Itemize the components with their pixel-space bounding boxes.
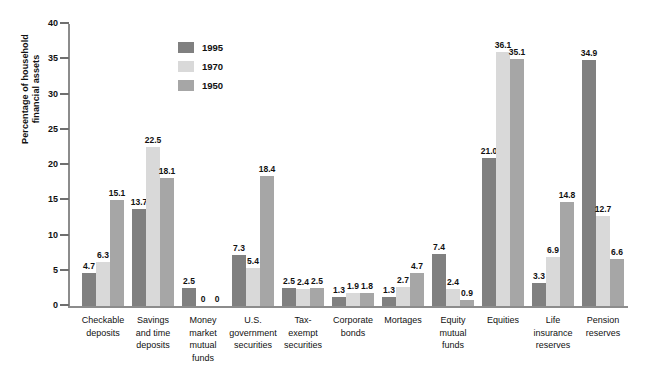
bar-slot[interactable]: 3.3 [532,24,546,306]
x-axis-category-label: Pensionreserves [572,314,634,339]
bar-value-label: 18.1 [159,167,176,176]
bar[interactable] [232,255,246,306]
bar[interactable] [282,288,296,306]
bar[interactable] [532,283,546,306]
y-axis-line [68,24,70,306]
bar-slot[interactable]: 13.7 [132,24,146,306]
bar-slot[interactable]: 36.1 [496,24,510,306]
bar[interactable] [560,202,574,306]
legend-item[interactable]: 1970 [178,61,223,72]
bar-slot[interactable]: 2.7 [396,24,410,306]
bar-value-label: 21.0 [481,147,498,156]
legend-label: 1970 [202,61,223,72]
bar[interactable] [110,200,124,306]
x-axis-category-label-line: funds [172,352,234,365]
bar[interactable] [160,178,174,306]
x-axis-category-label-line: funds [422,339,484,352]
y-axis-tick [60,198,69,200]
bar-slot[interactable]: 7.3 [232,24,246,306]
bar-slot[interactable]: 2.5 [310,24,324,306]
legend-label: 1950 [202,80,223,91]
bar-value-label: 0 [215,295,220,304]
bar[interactable] [96,262,110,306]
y-axis-tick [60,22,69,24]
bar[interactable] [582,60,596,306]
x-axis-category-label-line: securities [272,339,334,352]
bar[interactable] [482,158,496,306]
bar-slot[interactable]: 1.3 [332,24,346,306]
bar-slot[interactable]: 18.1 [160,24,174,306]
bar[interactable] [382,297,396,306]
y-axis-tick [60,234,69,236]
legend-item[interactable]: 1995 [178,42,223,53]
bar[interactable] [610,259,624,306]
bar[interactable] [182,288,196,306]
bar-slot[interactable]: 2.4 [446,24,460,306]
bar[interactable] [310,288,324,306]
bar-slot[interactable]: 14.8 [560,24,574,306]
y-axis-tick-label: 15 [34,195,58,204]
bar[interactable] [346,293,360,306]
bar-value-label: 2.4 [447,278,459,287]
bar-value-label: 4.7 [83,262,95,271]
legend-swatch-icon [178,42,194,53]
bar-slot[interactable]: 18.4 [260,24,274,306]
bar-slot[interactable]: 2.5 [282,24,296,306]
bar-slot[interactable]: 4.7 [410,24,424,306]
legend-swatch-icon [178,80,194,91]
bar-slot[interactable]: 6.3 [96,24,110,306]
bar-slot[interactable]: 2.4 [296,24,310,306]
y-axis-tick [60,269,69,271]
bar-slot[interactable]: 6.9 [546,24,560,306]
bar-value-label: 7.4 [433,243,445,252]
x-axis-category-label-line: reserves [522,339,584,352]
bar[interactable] [246,268,260,306]
bar[interactable] [460,300,474,306]
y-axis-tick-label: 35 [34,54,58,63]
bar[interactable] [496,52,510,307]
bar-slot[interactable]: 0.9 [460,24,474,306]
bar[interactable] [132,209,146,306]
bar-slot[interactable]: 4.7 [82,24,96,306]
bar-value-label: 2.5 [311,277,323,286]
bar[interactable] [296,289,310,306]
bar-slot[interactable]: 21.0 [482,24,496,306]
bar[interactable] [396,287,410,306]
x-axis-line [68,306,628,308]
bar-value-label: 22.5 [145,136,162,145]
bar-value-label: 6.3 [97,251,109,260]
bar-slot[interactable]: 12.7 [596,24,610,306]
y-axis-tick [60,304,69,306]
bar[interactable] [596,216,610,306]
bar-slot[interactable]: 35.1 [510,24,524,306]
bar-slot[interactable]: 15.1 [110,24,124,306]
bar[interactable] [510,59,524,306]
bar-value-label: 14.8 [559,191,576,200]
bar[interactable] [332,297,346,306]
y-axis-tick-label: 5 [34,266,58,275]
bar-value-label: 1.9 [347,282,359,291]
bar-slot[interactable]: 7.4 [432,24,446,306]
bar[interactable] [432,254,446,306]
bar-slot[interactable]: 1.3 [382,24,396,306]
bar-value-label: 35.1 [509,48,526,57]
bar-slot[interactable]: 34.9 [582,24,596,306]
y-axis-tick-label: 0 [34,301,58,310]
bar[interactable] [446,289,460,306]
x-axis-category-label-line: bonds [322,327,384,340]
bar[interactable] [410,273,424,306]
bar-value-label: 2.7 [397,276,409,285]
bar-slot[interactable]: 1.8 [360,24,374,306]
bar-slot[interactable]: 6.6 [610,24,624,306]
bar[interactable] [260,176,274,306]
legend-item[interactable]: 1950 [178,80,223,91]
bar-slot[interactable]: 1.9 [346,24,360,306]
bar[interactable] [360,293,374,306]
y-axis-tick-label: 10 [34,231,58,240]
bar-value-label: 15.1 [109,189,126,198]
bar-slot[interactable]: 22.5 [146,24,160,306]
y-axis-tick-label: 20 [34,160,58,169]
bar[interactable] [546,257,560,306]
bar[interactable] [82,273,96,306]
legend-label: 1995 [202,42,223,53]
